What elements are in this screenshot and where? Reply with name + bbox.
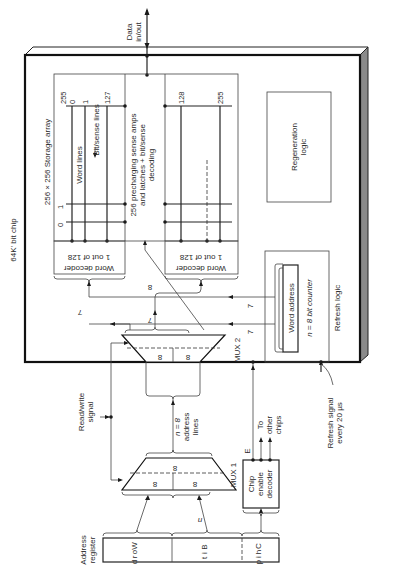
to-other-chips-line-2: other bbox=[265, 416, 274, 435]
field-chip-letter-3: i bbox=[254, 556, 263, 558]
address-lines-line-2: address bbox=[182, 413, 191, 441]
field-chip-letter-1: C bbox=[254, 543, 263, 549]
mux1-input-b: 8 bbox=[192, 480, 197, 489]
read-write-line-1: Read/write bbox=[77, 392, 86, 431]
col-label-255-right: 255 bbox=[216, 91, 225, 104]
counter-label: Word address bbox=[287, 283, 296, 333]
regeneration-logic-line-1: Regeneration bbox=[290, 123, 299, 171]
sense-amps-line-2: and latches + bit/sense bbox=[138, 123, 147, 206]
bit-bus-n-label: n bbox=[197, 516, 202, 525]
col-label-255-left: 255 bbox=[59, 91, 68, 104]
address-lines-n: n = 8 bbox=[173, 417, 182, 436]
col-label-0: 0 bbox=[68, 100, 77, 104]
storage-array-title: 256 × 256 Storage array bbox=[43, 119, 52, 206]
address-lines-line-3: lines bbox=[191, 419, 200, 435]
bus-label-7-b: 7 bbox=[246, 329, 255, 334]
field-word-letter-4: d bbox=[130, 560, 139, 564]
chip-enable-line-2: enable bbox=[256, 471, 265, 496]
counter-size-label: n = 8 bit counter bbox=[305, 279, 314, 337]
chip-label: 64K' bit chip bbox=[9, 218, 18, 262]
mux2-input-a: 8 bbox=[157, 353, 162, 362]
word-decoder-left-line-2: 1 out of 128 bbox=[67, 253, 110, 262]
chip-enable-line-3: decoder bbox=[265, 469, 274, 498]
mux2-bus-8: 8 bbox=[147, 283, 152, 292]
col-label-127: 127 bbox=[103, 91, 112, 104]
read-write-line-2: signal bbox=[86, 401, 95, 422]
field-bit-letter-1: B bbox=[200, 544, 209, 549]
refresh-signal-line-2: every 20 µs bbox=[335, 402, 344, 444]
field-word-letter-2: o bbox=[130, 549, 139, 554]
mux2-bus-7-right: 7 bbox=[147, 316, 152, 325]
row-label-0: 0 bbox=[56, 223, 65, 227]
field-word-letter-3: r bbox=[130, 555, 139, 558]
mux2-label: MUX 2 bbox=[233, 337, 242, 362]
to-other-chips-line-1: To bbox=[256, 420, 265, 429]
mux-1: 8 8 8 MUX 1 bbox=[122, 450, 238, 498]
col-label-128: 128 bbox=[177, 91, 186, 104]
address-register-label-2: register bbox=[88, 536, 97, 563]
data-io-label-1: Data bbox=[125, 23, 134, 40]
address-register-label-1: Address bbox=[79, 535, 88, 564]
bus-label-7-a: 7 bbox=[246, 303, 255, 308]
word-decoder-right-line-2: 1 out of 128 bbox=[179, 253, 222, 262]
dram-block-diagram: 64K' bit chip Data in/out bbox=[0, 0, 396, 574]
field-bit-letter-2: i bbox=[200, 552, 209, 554]
refresh-signal-line-1: Refresh signal bbox=[326, 397, 335, 448]
chip-enable-line-1: Chip bbox=[247, 475, 256, 492]
data-io-label-2: in/out bbox=[134, 21, 143, 41]
address-lines: n = 8 address lines bbox=[146, 362, 200, 452]
word-lines-label: Word lines bbox=[75, 146, 84, 184]
field-word-letter-1: W bbox=[130, 542, 139, 550]
read-write-signal: Read/write signal bbox=[77, 362, 123, 482]
col-label-1: 1 bbox=[81, 100, 90, 104]
mux1-label: MUX 1 bbox=[229, 462, 238, 487]
sense-amps-line-3: decoding bbox=[147, 149, 156, 181]
field-chip-letter-4: p bbox=[254, 559, 263, 564]
mux2-bus-7-left: 7 bbox=[77, 308, 82, 317]
word-decoder-left-line-1: Word decoder bbox=[64, 264, 114, 273]
regeneration-logic-line-2: logic bbox=[299, 139, 308, 155]
to-other-chips-line-3: chips bbox=[274, 416, 283, 435]
refresh-logic-label: Refresh logic bbox=[333, 285, 342, 332]
field-chip-letter-2: h bbox=[254, 550, 263, 554]
word-decoder-right-line-1: Word decoder bbox=[176, 264, 226, 273]
sense-amps-line-1: 256 precharging sense amps bbox=[129, 113, 138, 216]
row-label-1: 1 bbox=[56, 205, 65, 209]
mux2-input-b: 8 bbox=[185, 353, 190, 362]
mux1-input-a: 8 bbox=[152, 480, 157, 489]
chip-enable-decoder: Chip enable decoder E To other chips bbox=[243, 360, 283, 516]
bit-sense-lines-label: Bit/sense lines bbox=[92, 104, 101, 156]
refresh-signal: Refresh signal every 20 µs bbox=[321, 364, 344, 449]
enable-label: E bbox=[243, 448, 252, 453]
mux1-output: 8 bbox=[172, 464, 177, 473]
